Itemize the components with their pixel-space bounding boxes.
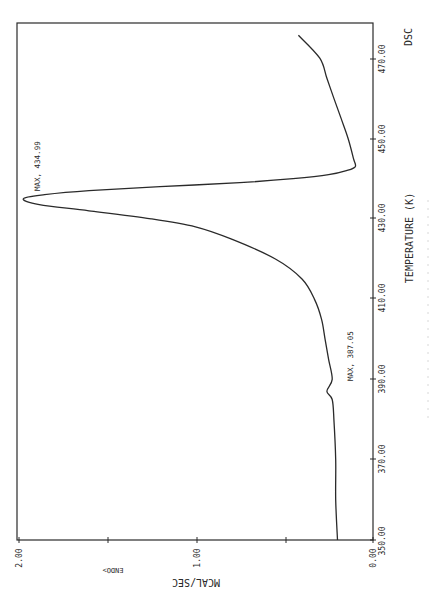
chart-title: DSC: [403, 28, 414, 46]
dsc-curve: [23, 35, 355, 540]
dsc-chart: 350.00 370.00 390.00 410.00 430.00 450.0…: [0, 0, 430, 598]
ytick-2: 2.00: [15, 548, 24, 567]
xtick-430: 430.00: [378, 203, 387, 232]
peak-annotation-387: MAX, 387.05: [346, 331, 355, 381]
xtick-370: 370.00: [378, 444, 387, 473]
heatflow-tick-labels: 0.00 1.00 2.00: [15, 548, 378, 567]
xtick-350: 350.00: [378, 526, 387, 555]
y-axis-title: MCAL/SEC: [172, 577, 220, 588]
xtick-410: 410.00: [378, 283, 387, 312]
peak-annotation-434: MAX, 434.99: [33, 141, 42, 191]
x-axis-title: TEMPERATURE (K): [404, 193, 415, 283]
endo-label: ENDO>: [102, 566, 123, 574]
xtick-470: 470.00: [378, 44, 387, 73]
xtick-390: 390.00: [378, 364, 387, 393]
plot-frame: [17, 23, 373, 540]
xtick-450: 450.00: [378, 124, 387, 153]
temperature-tick-labels: 350.00 370.00 390.00 410.00 430.00 450.0…: [378, 44, 387, 555]
ytick-0: 0.00: [369, 548, 378, 567]
ytick-1: 1.00: [193, 548, 202, 567]
